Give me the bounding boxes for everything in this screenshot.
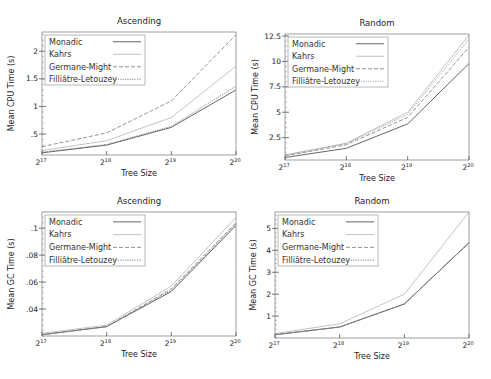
legend-label: Kahrs [49,230,72,239]
x-tick-label: 220 [462,162,473,173]
legend-label: Kahrs [49,50,72,59]
chart-cpu-random: Random2.557.51012.5217218219220Tree Size… [251,18,474,183]
chart-title: Ascending [117,16,161,26]
x-tick-label: 219 [165,338,176,349]
legend-label: Monadic [49,38,82,47]
chart-title: Ascending [117,196,161,206]
y-tick-label: 3 [266,268,271,277]
x-axis-label: Tree Size [120,169,157,178]
y-tick-label: .04 [26,305,38,314]
legend-label: Germane-Might [292,65,354,74]
legend-label: Kahrs [282,230,305,239]
series-line-filli-tre-letouzey [42,86,236,152]
y-tick-label: 5 [266,224,271,233]
y-tick-label: 12.5 [264,32,281,41]
x-tick-label: 220 [462,340,473,351]
y-tick-label: 4 [266,246,271,255]
y-tick-label: 7.5 [269,82,281,91]
y-tick-label: .5 [31,130,38,139]
y-tick-label: 10 [271,57,281,66]
y-tick-label: 2 [266,290,271,299]
legend: MonadicKahrsGermane-MightFilliâtre-Letou… [45,35,145,85]
y-tick-label: 1.5 [26,74,38,83]
y-axis-label: Mean CPU Time (s) [251,59,260,135]
x-tick-label: 219 [398,340,409,351]
x-tick-label: 219 [165,157,176,168]
chart-gc-ascending: Ascending.04.06.08.1217218219220Tree Siz… [7,196,241,359]
x-tick-label: 217 [278,162,289,173]
legend: MonadicKahrsGermane-MightFilliâtre-Letou… [278,215,378,266]
figure-charts: Ascending.511.52217218219220Tree SizeMea… [0,0,491,379]
legend-label: Filliâtre-Letouzey [282,256,350,265]
legend-label: Kahrs [292,52,315,61]
y-axis-label: Mean GC Time (s) [249,239,258,310]
x-tick-label: 218 [100,338,111,349]
chart-cpu-ascending: Ascending.511.52217218219220Tree SizeMea… [7,16,241,178]
chart-title: Random [359,18,394,28]
x-tick-label: 220 [229,338,240,349]
x-tick-label: 217 [35,157,46,168]
chart-gc-random: Random12345217218219220Tree SizeMean GC … [249,196,474,361]
series-line-monadic [42,90,236,153]
y-tick-label: .08 [26,251,38,260]
x-tick-label: 219 [401,162,412,173]
y-tick-label: 5 [276,108,281,117]
legend: MonadicKahrsGermane-MightFilliâtre-Letou… [45,215,145,266]
x-tick-label: 220 [229,157,240,168]
legend-label: Filliâtre-Letouzey [49,256,117,265]
y-tick-label: .06 [26,278,38,287]
y-tick-label: 1 [266,312,271,321]
legend-label: Germane-Might [49,63,111,72]
y-axis-label: Mean GC Time (s) [7,238,16,309]
x-tick-label: 217 [268,340,279,351]
x-tick-label: 218 [340,162,351,173]
x-tick-label: 218 [333,340,344,351]
y-axis-label: Mean CPU Time (s) [7,56,16,132]
legend-label: Filliâtre-Letouzey [49,75,117,84]
legend-label: Germane-Might [282,243,344,252]
x-tick-label: 218 [100,157,111,168]
x-tick-label: 217 [35,338,46,349]
y-tick-label: 2 [33,47,38,56]
legend-label: Germane-Might [49,243,111,252]
legend-label: Monadic [292,40,325,49]
x-axis-label: Tree Size [353,352,390,361]
legend-label: Monadic [49,218,82,227]
legend-label: Filliâtre-Letouzey [292,77,360,86]
legend-label: Monadic [282,218,315,227]
y-tick-label: 1 [33,102,38,111]
legend: MonadicKahrsGermane-MightFilliâtre-Letou… [288,37,388,87]
y-tick-label: 2.5 [269,133,281,142]
chart-title: Random [354,196,389,206]
x-axis-label: Tree Size [358,174,395,183]
x-axis-label: Tree Size [120,350,157,359]
y-tick-label: .1 [31,224,38,233]
